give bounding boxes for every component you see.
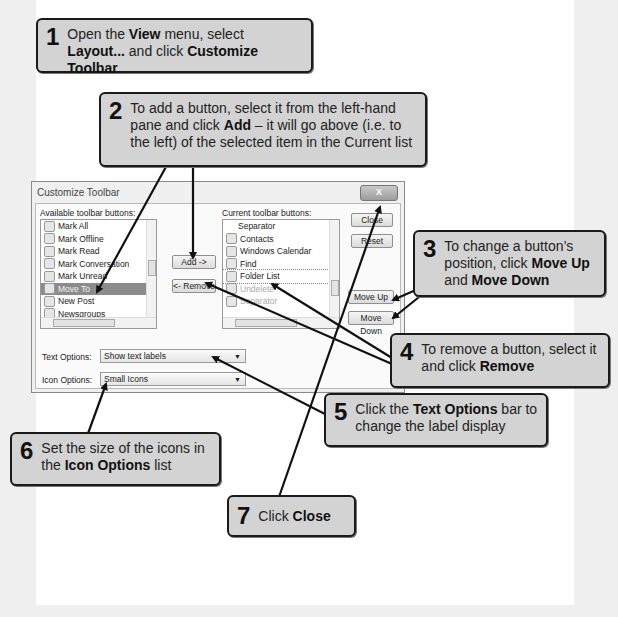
callout-step-3: 3 To change a button’s position, click M… xyxy=(413,230,606,297)
emphasis: Move Up xyxy=(532,255,590,271)
text-options-dropdown[interactable]: Show text labels ▼ xyxy=(100,349,246,363)
emphasis: Layout... xyxy=(67,43,125,59)
toolbar-button-icon xyxy=(226,222,235,231)
available-vertical-scrollbar[interactable] xyxy=(146,220,156,318)
list-item-label: Separator xyxy=(240,295,277,308)
current-buttons-label: Current toolbar buttons: xyxy=(222,208,311,218)
toolbar-button-icon xyxy=(44,258,55,269)
remove-button[interactable]: <- Remove xyxy=(172,279,216,293)
current-vertical-scrollbar[interactable] xyxy=(329,220,339,318)
close-button[interactable]: Close xyxy=(351,213,393,227)
scroll-thumb[interactable] xyxy=(53,319,115,327)
dropdown-arrow-icon: ▼ xyxy=(234,350,241,363)
toolbar-button-icon xyxy=(226,296,237,307)
toolbar-button-icon xyxy=(44,246,55,257)
step-text: Click Close xyxy=(258,508,330,525)
current-list-item[interactable]: Separator xyxy=(223,220,339,233)
list-item-label: Separator xyxy=(238,220,275,233)
current-list-item[interactable]: Windows Calendar xyxy=(223,245,339,258)
available-buttons-list[interactable]: Mark AllMark OfflineMark ReadMark Conver… xyxy=(40,219,157,329)
move-down-button[interactable]: Move Down xyxy=(348,311,394,325)
current-horizontal-scrollbar[interactable] xyxy=(223,317,339,328)
list-item-label: Contacts xyxy=(240,233,274,246)
current-list-item[interactable]: Contacts xyxy=(223,233,339,246)
add-button[interactable]: Add -> xyxy=(172,255,216,269)
available-list-item[interactable]: New Post xyxy=(41,295,156,308)
toolbar-button-icon xyxy=(44,271,55,282)
current-list-item[interactable]: Separator xyxy=(223,295,339,308)
available-list-item[interactable]: Mark Offline xyxy=(41,233,156,246)
list-item-label: Move To xyxy=(58,283,90,296)
icon-options-label: Icon Options: xyxy=(42,375,92,385)
toolbar-button-icon xyxy=(226,271,237,282)
text-options-label: Text Options: xyxy=(42,352,92,362)
step-text: To change a button’s position, click Mov… xyxy=(444,238,596,289)
step-number: 2 xyxy=(109,100,122,122)
step-text: To remove a button, select it and click … xyxy=(421,341,600,375)
available-list-item[interactable]: Mark Read xyxy=(41,245,156,258)
dialog-body: Available toolbar buttons: Mark AllMark … xyxy=(35,203,401,389)
list-item-label: Undelete xyxy=(240,283,274,296)
available-list-item[interactable]: Move To xyxy=(41,283,156,296)
toolbar-button-icon xyxy=(226,283,237,294)
callout-step-2: 2 To add a button, select it from the le… xyxy=(99,92,427,167)
current-list-item[interactable]: Undelete xyxy=(223,283,339,296)
emphasis: View xyxy=(129,26,161,42)
list-item-label: Mark Unread xyxy=(58,270,107,283)
step-number: 5 xyxy=(334,401,347,423)
emphasis: Text Options xyxy=(413,401,498,417)
step-text: Click the Text Options bar to change the… xyxy=(355,401,538,435)
scroll-thumb[interactable] xyxy=(235,319,297,327)
current-buttons-list[interactable]: SeparatorContactsWindows CalendarFindFol… xyxy=(222,219,340,329)
callout-step-5: 5 Click the Text Options bar to change t… xyxy=(324,393,548,447)
dialog-close-x-button[interactable]: X xyxy=(360,185,398,201)
list-item-label: New Post xyxy=(58,295,94,308)
callout-step-7: 7 Click Close xyxy=(227,495,356,537)
dialog-title: Customize Toolbar xyxy=(37,187,120,198)
text-options-value: Show text labels xyxy=(104,351,166,361)
emphasis: Move Down xyxy=(472,272,550,288)
available-list-item[interactable]: Mark All xyxy=(41,220,156,233)
list-item-label: Mark Read xyxy=(58,245,100,258)
list-item-label: Mark Offline xyxy=(58,233,104,246)
toolbar-button-icon xyxy=(44,283,55,294)
emphasis: Close xyxy=(293,508,331,524)
toolbar-button-icon xyxy=(44,233,55,244)
step-text: To add a button, select it from the left… xyxy=(130,100,417,151)
reset-button[interactable]: Reset xyxy=(351,234,393,248)
toolbar-button-icon xyxy=(44,221,55,232)
callout-step-1: 1 Open the View menu, select Layout... a… xyxy=(36,18,313,73)
callout-step-6: 6 Set the size of the icons in the Icon … xyxy=(10,432,221,486)
close-icon: X xyxy=(376,187,382,197)
emphasis: Remove xyxy=(480,358,534,374)
step-number: 4 xyxy=(400,341,413,363)
emphasis: Add xyxy=(224,117,251,133)
icon-options-dropdown[interactable]: Small Icons ▼ xyxy=(100,372,246,386)
step-text: Set the size of the icons in the Icon Op… xyxy=(41,440,211,474)
emphasis: Icon Options xyxy=(65,457,151,473)
available-list-item[interactable]: Mark Unread xyxy=(41,270,156,283)
step-number: 3 xyxy=(423,238,436,260)
scroll-thumb[interactable] xyxy=(148,260,156,276)
available-list-item[interactable]: Mark Conversation xyxy=(41,258,156,271)
list-item-label: Mark All xyxy=(58,220,88,233)
available-horizontal-scrollbar[interactable] xyxy=(41,317,156,328)
step-number: 1 xyxy=(46,26,59,48)
callout-step-4: 4 To remove a button, select it and clic… xyxy=(390,333,610,388)
list-item-label: Find xyxy=(240,258,257,271)
list-item-label: Mark Conversation xyxy=(58,258,129,271)
step-number: 6 xyxy=(20,440,33,462)
current-list-item[interactable]: Folder List xyxy=(223,270,339,283)
available-buttons-label: Available toolbar buttons: xyxy=(40,208,135,218)
icon-options-value: Small Icons xyxy=(104,374,148,384)
current-list-item[interactable]: Find xyxy=(223,258,339,271)
step-text: Open the View menu, select Layout... and… xyxy=(67,26,303,77)
toolbar-button-icon xyxy=(226,258,237,269)
toolbar-button-icon xyxy=(226,246,237,257)
toolbar-button-icon xyxy=(226,233,237,244)
move-up-button[interactable]: Move Up xyxy=(348,290,394,304)
list-item-label: Windows Calendar xyxy=(240,245,311,258)
list-item-label: Folder List xyxy=(240,270,280,283)
customize-toolbar-dialog: Customize Toolbar X Available toolbar bu… xyxy=(31,181,405,393)
scroll-thumb[interactable] xyxy=(331,280,339,296)
